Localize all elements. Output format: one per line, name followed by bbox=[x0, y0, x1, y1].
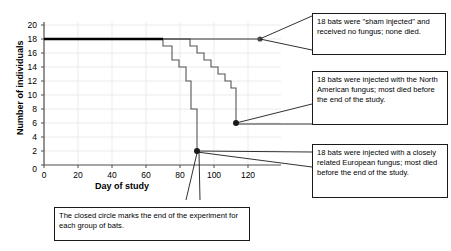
callout-closed-circle-text: The closed circle marks the end of the e… bbox=[59, 211, 245, 231]
x-tick-80: 80 bbox=[170, 170, 190, 180]
callout-european-text: 18 bats were injected with a closely rel… bbox=[317, 148, 443, 179]
x-tick-60: 60 bbox=[136, 170, 156, 180]
y-tick-14: 14 bbox=[21, 62, 37, 72]
callout-north-american: 18 bats were injected with the North Ame… bbox=[312, 71, 448, 125]
callout-closed-circle: The closed circle marks the end of the e… bbox=[54, 207, 250, 241]
x-tick-120: 120 bbox=[238, 170, 258, 180]
y-tick-8: 8 bbox=[21, 104, 37, 114]
y-tick-18: 18 bbox=[21, 34, 37, 44]
x-tick-100: 100 bbox=[204, 170, 224, 180]
y-tick-20: 20 bbox=[21, 20, 37, 30]
y-tick-12: 12 bbox=[21, 76, 37, 86]
callout-european: 18 bats were injected with a closely rel… bbox=[312, 144, 448, 198]
x-tick-0: 0 bbox=[34, 170, 54, 180]
callout-north-american-text: 18 bats were injected with the North Ame… bbox=[317, 75, 443, 106]
figure-root: Number of individuals Day of study 20 18… bbox=[0, 0, 451, 251]
x-axis-label: Day of study bbox=[95, 181, 149, 191]
x-tick-20: 20 bbox=[68, 170, 88, 180]
y-tick-2: 2 bbox=[21, 146, 37, 156]
callout-sham-text: 18 bats were "sham injected" and receive… bbox=[317, 17, 441, 37]
y-tick-16: 16 bbox=[21, 48, 37, 58]
y-tick-4: 4 bbox=[21, 132, 37, 142]
y-tick-6: 6 bbox=[21, 118, 37, 128]
y-tick-10: 10 bbox=[21, 90, 37, 100]
callout-sham-injected: 18 bats were "sham injected" and receive… bbox=[312, 13, 446, 55]
x-tick-40: 40 bbox=[102, 170, 122, 180]
